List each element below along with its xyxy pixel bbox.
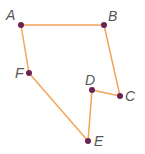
diagram-canvas: ABCDEF — [0, 0, 145, 154]
edge-EF — [29, 73, 88, 141]
edge-BC — [104, 25, 120, 96]
point-label-C: C — [125, 88, 136, 104]
polygon-diagram: ABCDEF — [0, 0, 145, 154]
point-label-F: F — [15, 65, 25, 81]
point-label-A: A — [5, 7, 15, 23]
point-label-E: E — [94, 133, 104, 149]
point-label-D: D — [85, 72, 95, 88]
point-F — [26, 70, 32, 76]
point-B — [101, 22, 107, 28]
point-A — [18, 22, 24, 28]
point-label-B: B — [108, 8, 117, 24]
edge-DE — [88, 90, 92, 141]
edge-CD — [92, 90, 120, 96]
point-C — [117, 93, 123, 99]
point-E — [85, 138, 91, 144]
